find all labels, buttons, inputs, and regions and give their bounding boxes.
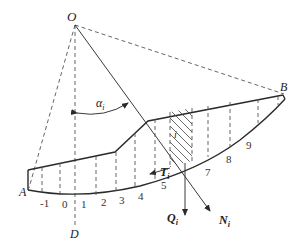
label-B: B [280,80,288,94]
slice-number: 8 [226,153,232,165]
label-N-i: Ni [218,213,231,229]
slice-number: 4 [138,190,144,202]
slice-number: 1 [81,198,87,210]
slice-number: 0 [62,198,68,210]
slice-number: 2 [101,196,107,208]
label-O: O [67,9,77,24]
label-D: D [69,227,79,241]
radius-line-normal-force [75,25,210,211]
slope-stability-diagram: O A B D αi i Ti Qi Ni -1 0 1 2 3 4 5 7 8… [0,0,302,242]
crest-edge [283,95,285,99]
slice-number: 5 [161,179,167,191]
label-Q-i: Qi [167,211,179,227]
slice-number: 7 [205,166,211,178]
slice-number: 9 [246,139,252,151]
label-slice-i: i [174,129,177,140]
label-A: A [18,185,27,199]
slice-number: -1 [40,197,49,209]
slope-surface [28,95,283,170]
slice-numbers: -1 0 1 2 3 4 5 7 8 9 [40,139,252,210]
radius-line-to-A [29,25,75,188]
slice-number: 3 [119,194,125,206]
radius-line-to-B [75,25,284,94]
label-alpha: αi [96,96,105,112]
